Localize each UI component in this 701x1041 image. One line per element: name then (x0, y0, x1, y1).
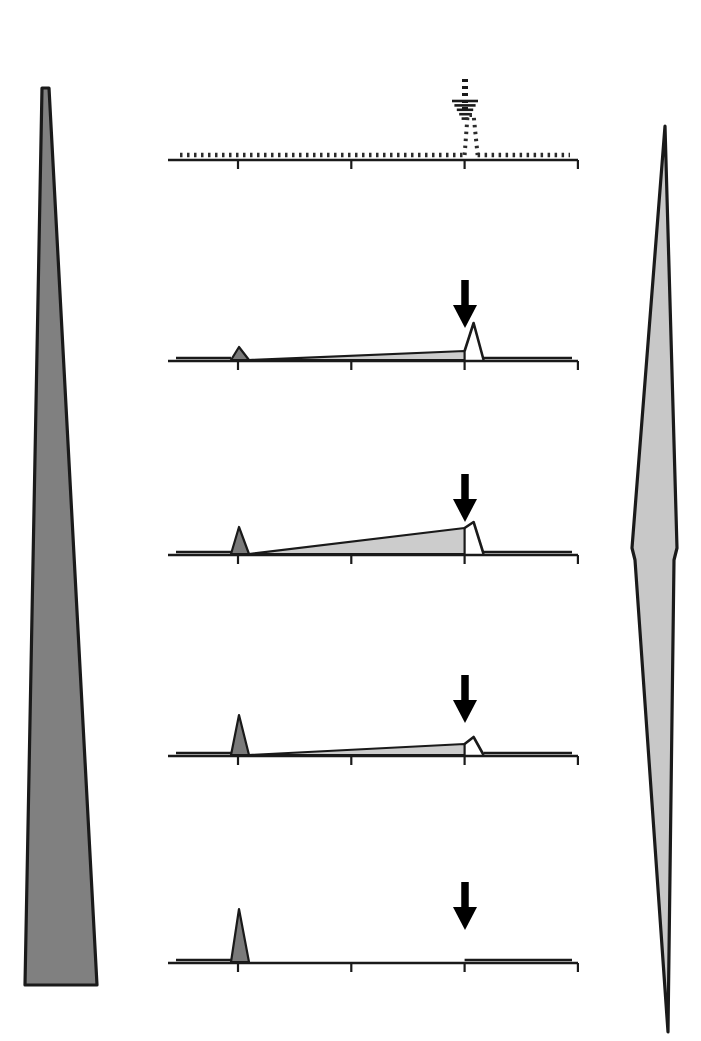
cue-response-peak-3 (231, 715, 249, 755)
response-trace-4 (0, 876, 701, 966)
panel-3 (0, 622, 701, 822)
response-trace-3 (0, 669, 701, 759)
time-axis-2 (0, 552, 701, 572)
time-axis-1 (0, 358, 701, 378)
panel-4 (0, 822, 701, 1022)
panel-0 (0, 18, 701, 218)
response-trace-1 (0, 274, 701, 364)
response-trace-0 (0, 73, 701, 163)
panel-2 (0, 424, 701, 624)
panel-1 (0, 228, 701, 428)
dotted-outcome-spike-0 (465, 115, 478, 155)
cue-response-peak-4 (231, 909, 249, 962)
cue-response-peak-2 (231, 527, 249, 554)
time-axis-4 (0, 960, 701, 980)
response-trace-2 (0, 468, 701, 558)
outcome-response-peak-2 (465, 522, 484, 554)
time-axis-0 (0, 157, 701, 177)
time-axis-3 (0, 753, 701, 773)
outcome-response-peak-1 (465, 323, 484, 360)
anticipatory-ramp-2 (249, 528, 465, 554)
figure-root (0, 0, 701, 1041)
